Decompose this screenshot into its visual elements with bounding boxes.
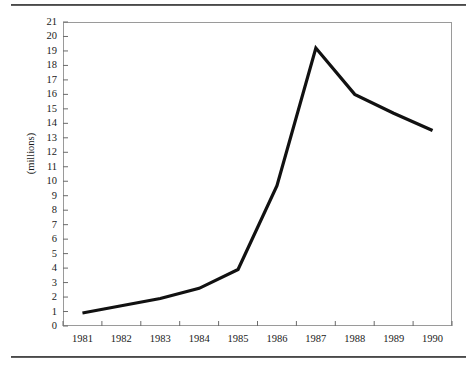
bottom-horizontal-rule bbox=[11, 356, 466, 358]
x-tick-label: 1990 bbox=[411, 333, 455, 345]
y-tick-label: 12 bbox=[35, 146, 57, 157]
x-tick-label: 1989 bbox=[372, 333, 416, 345]
x-tick-label: 1983 bbox=[138, 333, 182, 345]
x-tick-label: 1986 bbox=[255, 333, 299, 345]
y-tick-label: 3 bbox=[35, 277, 57, 288]
y-tick-label: 0 bbox=[35, 320, 57, 331]
y-axis-title: (millions) bbox=[25, 114, 36, 194]
y-tick-label: 5 bbox=[35, 248, 57, 259]
y-tick-label: 4 bbox=[35, 262, 57, 273]
x-tick-label: 1981 bbox=[60, 333, 104, 345]
plot-area bbox=[63, 22, 452, 326]
y-tick-label: 13 bbox=[35, 132, 57, 143]
x-tick-label: 1988 bbox=[333, 333, 377, 345]
x-tick-label: 1982 bbox=[99, 333, 143, 345]
x-tick-label: 1984 bbox=[177, 333, 221, 345]
top-horizontal-rule bbox=[11, 4, 466, 6]
y-tick-label: 18 bbox=[35, 59, 57, 70]
y-tick-label: 7 bbox=[35, 219, 57, 230]
y-tick-label: 20 bbox=[35, 30, 57, 41]
y-tick-label: 19 bbox=[35, 45, 57, 56]
y-tick-label: 15 bbox=[35, 103, 57, 114]
x-tick-label: 1987 bbox=[294, 333, 338, 345]
y-tick-label: 17 bbox=[35, 74, 57, 85]
y-tick-label: 11 bbox=[35, 161, 57, 172]
y-tick-label: 1 bbox=[35, 306, 57, 317]
y-tick-label: 21 bbox=[35, 16, 57, 27]
x-tick-label: 1985 bbox=[216, 333, 260, 345]
y-tick-label: 8 bbox=[35, 204, 57, 215]
y-tick-label: 14 bbox=[35, 117, 57, 128]
y-tick-label: 9 bbox=[35, 190, 57, 201]
y-tick-label: 6 bbox=[35, 233, 57, 244]
y-tick-label: 2 bbox=[35, 291, 57, 302]
figure-container: (millions) 01234567891011121314151617181… bbox=[0, 0, 476, 367]
y-tick-label: 10 bbox=[35, 175, 57, 186]
y-tick-label: 16 bbox=[35, 88, 57, 99]
